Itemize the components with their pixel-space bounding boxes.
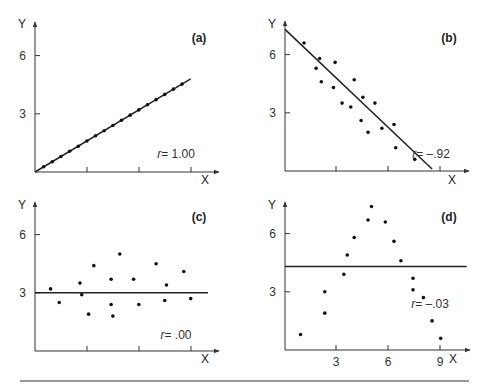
x-axis-label: X xyxy=(449,352,457,366)
x-tick-label: 3 xyxy=(333,355,340,369)
panel-label: (d) xyxy=(441,210,456,224)
x-axis-label: X xyxy=(201,352,209,366)
data-point xyxy=(128,113,132,117)
y-axis-label: Y xyxy=(18,198,26,212)
data-point xyxy=(323,290,327,294)
y-tick-label: 3 xyxy=(269,285,276,299)
y-tick-label: 3 xyxy=(19,286,26,300)
data-point xyxy=(352,78,356,82)
panel-c: 36YX(c)r= .00 xyxy=(18,198,219,366)
data-point xyxy=(42,165,46,169)
data-point xyxy=(146,103,150,107)
panel-label: (a) xyxy=(192,31,207,45)
data-point xyxy=(109,303,113,307)
fit-line xyxy=(285,29,432,169)
data-point xyxy=(299,333,303,337)
data-point xyxy=(366,218,370,222)
y-axis-label: Y xyxy=(268,198,276,212)
y-tick-label: 6 xyxy=(269,227,276,241)
data-point xyxy=(49,287,53,291)
y-tick-label: 6 xyxy=(19,228,26,242)
data-point xyxy=(137,108,141,112)
data-point xyxy=(137,303,141,307)
data-point xyxy=(320,80,324,84)
data-point xyxy=(380,127,384,131)
data-point xyxy=(399,259,403,263)
data-point xyxy=(163,93,167,97)
data-point xyxy=(366,130,370,134)
data-point xyxy=(68,149,72,153)
data-point xyxy=(51,160,55,164)
data-point xyxy=(102,129,106,133)
panel-label: (c) xyxy=(192,210,207,224)
data-point xyxy=(349,105,353,109)
correlation-figure: 36YX(a)r= 1.0036YX(b)r= –.9236YX(c)r= .0… xyxy=(0,0,489,388)
data-point xyxy=(154,98,158,102)
x-tick-label: 9 xyxy=(437,355,444,369)
data-point xyxy=(384,220,388,224)
data-point xyxy=(373,101,377,105)
data-point xyxy=(109,277,113,281)
data-point xyxy=(59,155,63,159)
data-point xyxy=(392,240,396,244)
y-tick-label: 6 xyxy=(269,48,276,62)
data-point xyxy=(132,277,136,281)
correlation-annotation: r= .00 xyxy=(160,328,191,342)
panel-label: (b) xyxy=(441,31,456,45)
data-point xyxy=(87,312,91,316)
data-point xyxy=(78,281,82,285)
data-point xyxy=(352,236,356,240)
correlation-annotation: r= 1.00 xyxy=(157,147,195,161)
data-point xyxy=(333,61,337,65)
data-point xyxy=(411,288,415,292)
data-point xyxy=(439,337,443,341)
y-tick-label: 3 xyxy=(269,106,276,120)
data-point xyxy=(111,124,115,128)
data-point xyxy=(411,276,415,280)
data-point xyxy=(172,87,176,91)
data-point xyxy=(111,314,115,318)
data-point xyxy=(85,139,89,143)
y-tick-label: 6 xyxy=(19,49,26,63)
data-point xyxy=(189,297,193,301)
data-point xyxy=(57,301,61,305)
data-point xyxy=(314,66,318,70)
data-point xyxy=(359,119,363,123)
data-point xyxy=(302,41,306,45)
data-point xyxy=(94,134,98,138)
data-point xyxy=(340,101,344,105)
panel-a: 36YX(a)r= 1.00 xyxy=(18,17,219,187)
y-tick-label: 3 xyxy=(19,107,26,121)
y-axis-label: Y xyxy=(18,17,26,31)
panel-d: 36369YX(d)r= –.03 xyxy=(268,198,470,369)
data-point xyxy=(182,270,186,274)
data-point xyxy=(165,283,169,287)
correlation-annotation: r= –.03 xyxy=(411,297,449,311)
x-axis-label: X xyxy=(448,173,456,187)
x-axis-label: X xyxy=(201,173,209,187)
data-point xyxy=(392,123,396,127)
data-point xyxy=(332,86,336,90)
data-point xyxy=(163,299,167,303)
data-point xyxy=(430,319,434,323)
data-point xyxy=(80,293,84,297)
data-point xyxy=(361,95,365,99)
x-tick-label: 6 xyxy=(385,355,392,369)
data-point xyxy=(323,311,327,315)
data-point xyxy=(370,205,374,209)
data-point xyxy=(318,57,322,61)
data-point xyxy=(76,144,80,148)
data-point xyxy=(118,252,122,256)
data-point xyxy=(154,262,158,266)
data-point xyxy=(92,264,96,268)
data-point xyxy=(180,82,184,86)
y-axis-label: Y xyxy=(268,17,276,31)
panel-b: 36YX(b)r= –.92 xyxy=(268,17,469,187)
correlation-annotation: r= –.92 xyxy=(412,147,450,161)
data-point xyxy=(120,118,124,122)
data-point xyxy=(394,146,398,150)
data-point xyxy=(342,273,346,277)
data-point xyxy=(345,253,349,257)
